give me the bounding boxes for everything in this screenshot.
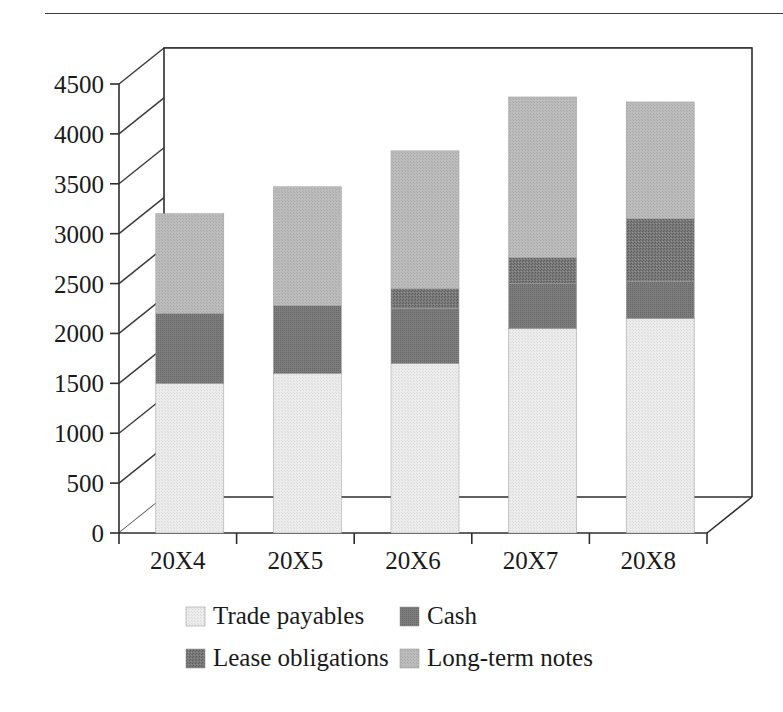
y-axis-tick-label: 1500 [54, 370, 104, 397]
y-axis-tick-label: 500 [67, 470, 105, 497]
legend-item[interactable]: Trade payables [186, 602, 364, 629]
legend-swatch-icon [400, 649, 419, 668]
y-axis-tick-label: 2000 [54, 320, 104, 347]
figure-container: 050010001500200025003000350040004500 20X… [0, 0, 783, 712]
legend-label: Trade payables [213, 602, 364, 629]
x-axis-category-labels: 20X420X520X620X720X8 [150, 547, 676, 574]
bar-segment [273, 306, 341, 374]
x-axis-category-label: 20X7 [503, 547, 559, 574]
bar-segment [273, 187, 341, 306]
x-axis-category-label: 20X8 [620, 547, 676, 574]
legend-label: Lease obligations [213, 644, 389, 671]
gridline-depth [119, 148, 164, 184]
y-axis-tick-label: 3000 [54, 221, 104, 248]
y-axis-tick-label: 4500 [54, 71, 104, 98]
x-axis-category-label: 20X6 [385, 547, 441, 574]
bar-segment [626, 219, 694, 282]
bar-segment [391, 289, 459, 309]
bar-segment [509, 284, 577, 329]
gridline-depth [119, 48, 164, 84]
legend-swatch-icon [186, 607, 205, 626]
stacked-column-chart: 050010001500200025003000350040004500 20X… [0, 0, 783, 712]
bar-segment [509, 328, 577, 533]
bar-segment [391, 151, 459, 289]
legend-item[interactable]: Cash [400, 602, 478, 629]
bar-segment [626, 282, 694, 319]
legend-label: Long-term notes [427, 644, 593, 671]
y-axis-tick-label: 0 [92, 520, 105, 547]
x-axis-category-label: 20X5 [268, 547, 324, 574]
y-axis-tick-label: 1000 [54, 420, 104, 447]
bar-segment [156, 313, 224, 383]
legend-swatch-icon [186, 649, 205, 668]
bar-segment [156, 383, 224, 533]
legend-swatch-icon [400, 607, 419, 626]
legend-item[interactable]: Lease obligations [186, 644, 389, 671]
bar-segment [391, 309, 459, 364]
legend-item[interactable]: Long-term notes [400, 644, 593, 671]
y-axis-tick-labels: 050010001500200025003000350040004500 [54, 71, 104, 547]
gridline-depth [119, 98, 164, 134]
bar-segment [626, 318, 694, 533]
y-axis-tick-label: 4000 [54, 121, 104, 148]
bar-segment [509, 97, 577, 258]
x-axis-category-label: 20X4 [150, 547, 206, 574]
bar-segment [509, 258, 577, 284]
legend-label: Cash [427, 602, 478, 629]
bar-segment [391, 363, 459, 533]
y-axis-tick-label: 2500 [54, 271, 104, 298]
chart-legend: Trade payablesCashLease obligationsLong-… [186, 602, 593, 671]
y-axis-tick-label: 3500 [54, 171, 104, 198]
bar-segment [626, 102, 694, 219]
bar-segment [273, 373, 341, 533]
bar-segment [156, 214, 224, 314]
